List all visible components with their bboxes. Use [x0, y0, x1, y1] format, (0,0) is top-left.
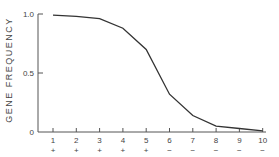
x-tick-label: 7 — [191, 136, 196, 145]
y-tick-label: 0 — [30, 128, 35, 137]
x-sign-label: + — [144, 146, 149, 155]
line-chart: 00.51.0 1+2+3+4+5+6−7−8−9−10− — [0, 0, 279, 157]
y-tick-label: 1.0 — [23, 10, 35, 19]
x-tick-label: 5 — [144, 136, 149, 145]
x-sign-label: − — [214, 146, 219, 155]
x-sign-label: − — [167, 146, 172, 155]
x-tick-label: 10 — [258, 136, 267, 145]
x-sign-label: − — [190, 146, 195, 155]
x-sign-label: + — [121, 146, 126, 155]
axes — [38, 14, 266, 132]
y-tick-label: 0.5 — [23, 69, 35, 78]
x-tick-label: 9 — [237, 136, 242, 145]
gene-frequency-line — [53, 15, 263, 131]
x-tick-label: 6 — [167, 136, 172, 145]
x-sign-label: + — [51, 146, 56, 155]
x-sign-label: − — [237, 146, 242, 155]
x-sign-label: + — [97, 146, 102, 155]
y-ticks: 00.51.0 — [23, 10, 43, 137]
x-tick-label: 1 — [51, 136, 56, 145]
x-tick-label: 3 — [97, 136, 102, 145]
x-tick-label: 2 — [74, 136, 79, 145]
x-sign-label: + — [74, 146, 79, 155]
x-tick-label: 4 — [121, 136, 126, 145]
x-tick-label: 8 — [214, 136, 219, 145]
x-sign-label: − — [260, 146, 265, 155]
